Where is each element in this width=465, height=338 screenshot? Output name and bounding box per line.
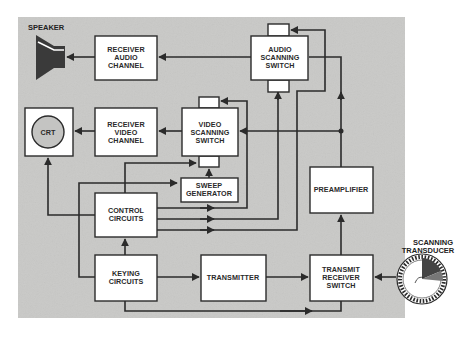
crt-label: CRT bbox=[40, 128, 56, 137]
receiver-audio-label-3: CHANNEL bbox=[108, 61, 144, 70]
transmitter-label: TRANSMITTER bbox=[207, 273, 260, 282]
scanning-transducer-icon bbox=[397, 254, 447, 304]
video-switch-label-3: SWITCH bbox=[196, 136, 225, 145]
control-label-2: CIRCUITS bbox=[109, 214, 144, 223]
sweep-label-2: GENERATOR bbox=[186, 189, 233, 198]
speaker-label: SPEAKER bbox=[28, 23, 65, 32]
audio-switch-label-3: SWITCH bbox=[266, 61, 295, 70]
receiver-video-label-3: CHANNEL bbox=[108, 136, 144, 145]
tr-switch-label-3: SWITCH bbox=[327, 281, 356, 290]
block-diagram: SPEAKER RECEIVER AUDIO CHANNEL AUDIO SCA… bbox=[0, 0, 465, 338]
transducer-label-2: TRANSDUCER bbox=[402, 246, 455, 255]
keying-label-2: CIRCUITS bbox=[109, 277, 144, 286]
preamplifier-label: PREAMPLIFIER bbox=[314, 185, 369, 194]
